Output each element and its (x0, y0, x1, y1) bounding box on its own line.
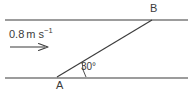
velocity-unit-exponent: −1 (44, 26, 53, 35)
point-label-a: A (56, 80, 63, 91)
velocity-magnitude: 0.8 (9, 28, 24, 40)
velocity-unit-base: m s (26, 28, 44, 40)
velocity-label: 0.8m s−1 (9, 29, 53, 40)
diagram-canvas (0, 0, 193, 98)
diagonal-line-ab (57, 20, 152, 77)
point-label-b: B (150, 3, 157, 14)
physics-diagram-figure: B A 30° 0.8m s−1 (0, 0, 193, 98)
angle-label-30-degrees: 30° (81, 62, 96, 72)
